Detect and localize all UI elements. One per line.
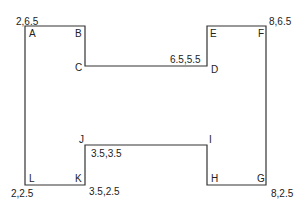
coord-label-d: 6.5,5.5 [170,54,201,65]
vertex-label-a: A [29,28,36,39]
vertex-label-i: I [209,134,212,145]
vertex-label-c: C [75,62,82,73]
vertex-label-e: E [210,28,217,39]
coord-label-a: 2,6.5 [16,16,39,27]
vertex-label-h: H [211,173,218,184]
coord-label-g: 8,2.5 [271,188,294,199]
coord-label-f: 8,6.5 [269,16,292,27]
coord-label-l: 2,2.5 [11,188,34,199]
vertex-label-d: D [211,64,218,75]
vertex-label-b: B [75,28,82,39]
vertex-label-g: G [257,173,265,184]
h-shape-outline [25,26,266,185]
vertex-label-f: F [258,28,264,39]
coord-label-k: 3.5,2.5 [89,186,120,197]
vertex-label-k: K [75,173,82,184]
vertex-label-j: J [79,134,84,145]
coord-label-j: 3.5,3.5 [91,148,122,159]
h-shape-diagram: A B C D E F G H I J K L 2,6.5 6.5,5.5 8,… [0,0,305,208]
vertex-label-l: L [29,173,35,184]
